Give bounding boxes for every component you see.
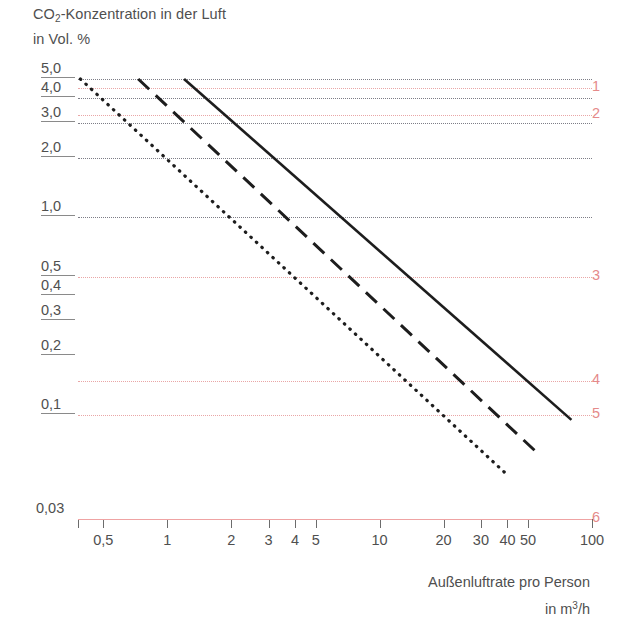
- curve-dotted: [80, 79, 507, 475]
- x-axis-caption-line1: Außenluftrate pro Person: [428, 571, 590, 594]
- x-axis-caption: Außenluftrate pro Person in m3/h: [428, 571, 590, 621]
- curve-dashed: [138, 79, 537, 453]
- x-axis-caption-line2: in m3/h: [428, 594, 590, 621]
- x-axis-unit-rest: /h: [578, 601, 590, 617]
- chart-root: CO2-Konzentration in der Luft in Vol. % …: [0, 0, 626, 629]
- x-axis-unit-prefix: in m: [545, 601, 572, 617]
- curve-layer: [0, 0, 626, 629]
- curve-solid: [184, 79, 571, 420]
